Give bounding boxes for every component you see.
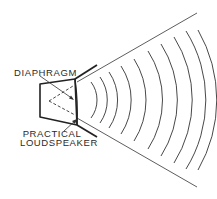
sound-waves [91, 30, 217, 170]
cone-lower-boundary [77, 118, 197, 187]
wave-arc-7 [161, 44, 177, 156]
practical-label-line2: LOUDSPEAKER [20, 138, 84, 147]
diaphragm-label: DIAPHRAGM [14, 68, 77, 77]
wave-arc-3 [109, 72, 118, 128]
speaker-body [40, 79, 77, 125]
diaphragm-arrowhead-icon [69, 96, 74, 101]
loudspeaker-diagram [0, 0, 217, 199]
practical-loudspeaker-label: PRACTICAL LOUDSPEAKER [20, 129, 84, 147]
dashed-cone-lower [49, 101, 75, 115]
cone-upper-boundary [77, 13, 197, 82]
wave-arc-1 [91, 82, 97, 118]
wave-arc-8 [174, 37, 192, 163]
wave-arc-9 [186, 31, 206, 169]
wave-arc-5 [134, 59, 146, 141]
dashed-cone-upper [49, 86, 73, 101]
wave-arc-10 [198, 30, 217, 170]
wave-arc-2 [100, 77, 107, 123]
wave-arc-6 [148, 51, 163, 149]
wave-arc-4 [121, 66, 131, 134]
